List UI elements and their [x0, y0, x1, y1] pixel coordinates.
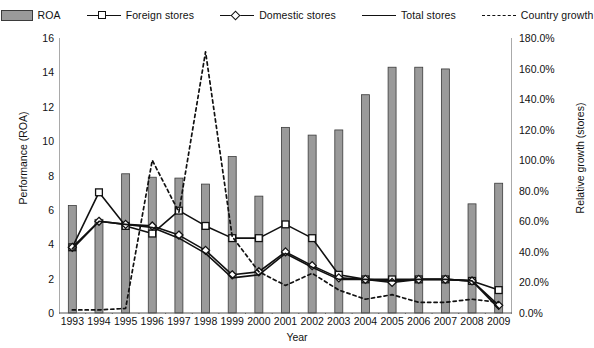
filled-bar-swatch-icon	[1, 10, 33, 21]
x-axis-tick-label: 2000	[247, 315, 270, 327]
bar	[335, 130, 343, 313]
y-axis-right-tick-label: 40.0%	[519, 246, 549, 258]
y-axis-left-tick-label: 16	[42, 32, 54, 44]
legend-label: Country growth	[521, 9, 594, 21]
x-axis-tick-label: 2007	[434, 315, 457, 327]
x-axis-tick-label: 1998	[194, 315, 217, 327]
square-marker	[202, 223, 209, 230]
legend-label: ROA	[38, 9, 61, 21]
line-diamond-marker-icon	[220, 10, 254, 20]
plot-area	[59, 38, 512, 313]
x-axis-title: Year	[0, 331, 594, 343]
x-axis-tick-label: 2005	[380, 315, 403, 327]
y-axis-right-tick-label: 180.0%	[519, 32, 555, 44]
square-marker	[309, 235, 316, 242]
chart-legend: ROA Foreign stores Domestic stores Total…	[0, 4, 594, 26]
y-axis-right-tick-label: 20.0%	[519, 276, 549, 288]
y-axis-right-tick-label: 160.0%	[519, 63, 555, 75]
y-axis-left-tick-label: 12	[42, 101, 54, 113]
bar-series-roa	[68, 67, 502, 313]
y-axis-right-tick-label: 60.0%	[519, 215, 549, 227]
x-axis-tick-label: 2009	[487, 315, 510, 327]
y-axis-left-tick-label: 14	[42, 66, 54, 78]
y-axis-right-tick-label: 0.0%	[519, 307, 543, 319]
y-axis-left-tick-label: 4	[48, 238, 54, 250]
bar	[148, 177, 156, 313]
x-axis-tick-label: 2002	[300, 315, 323, 327]
x-axis-tick-label: 1999	[221, 315, 244, 327]
square-marker	[495, 287, 502, 294]
x-axis-tick-label: 2003	[327, 315, 350, 327]
y-axis-right-tick-label: 100.0%	[519, 154, 555, 166]
dashed-line-icon	[482, 10, 516, 20]
x-axis-tick-label: 1995	[114, 315, 137, 327]
legend-item-domestic-stores: Domestic stores	[220, 9, 336, 21]
y-axis-right-ticks: 0.0%20.0%40.0%60.0%80.0%100.0%120.0%140.…	[519, 38, 591, 313]
y-axis-left-tick-label: 2	[48, 273, 54, 285]
line-square-marker-icon	[87, 10, 121, 20]
square-marker	[149, 230, 156, 237]
x-axis-tick-label: 1994	[87, 315, 110, 327]
y-axis-left-tick-label: 6	[48, 204, 54, 216]
chart-figure: ROA Foreign stores Domestic stores Total…	[0, 0, 594, 348]
x-axis-tick-label: 1993	[61, 315, 84, 327]
bar	[95, 219, 103, 313]
bar	[68, 206, 76, 313]
bar	[468, 204, 476, 313]
square-marker	[96, 189, 103, 196]
y-axis-left-tick-label: 8	[48, 170, 54, 182]
y-axis-left-tick-label: 10	[42, 135, 54, 147]
legend-item-total-stores: Total stores	[362, 9, 456, 21]
x-axis-ticks: 1993199419951996199719981999200020012002…	[59, 315, 512, 331]
y-axis-right-tick-label: 140.0%	[519, 93, 555, 105]
solid-line-icon	[362, 10, 396, 20]
y-axis-left-tick-label: 0	[48, 307, 54, 319]
legend-item-foreign-stores: Foreign stores	[87, 9, 195, 21]
legend-label: Domestic stores	[259, 9, 336, 21]
bar	[255, 196, 263, 313]
y-axis-right-tick-label: 80.0%	[519, 185, 549, 197]
square-marker	[255, 235, 262, 242]
x-axis-tick-label: 2008	[460, 315, 483, 327]
x-axis-tick-label: 2006	[407, 315, 430, 327]
bar	[308, 135, 316, 313]
y-axis-left-ticks: 0246810121416	[0, 38, 54, 313]
square-marker	[282, 221, 289, 228]
y-axis-right-tick-label: 120.0%	[519, 124, 555, 136]
x-axis-tick-label: 1996	[141, 315, 164, 327]
x-axis-tick-label: 1997	[167, 315, 190, 327]
legend-item-roa: ROA	[1, 9, 61, 21]
legend-item-country-growth: Country growth	[482, 9, 594, 21]
legend-label: Foreign stores	[126, 9, 195, 21]
legend-label: Total stores	[401, 9, 456, 21]
x-axis-tick-label: 2001	[274, 315, 297, 327]
x-axis-tick-label: 2004	[354, 315, 377, 327]
